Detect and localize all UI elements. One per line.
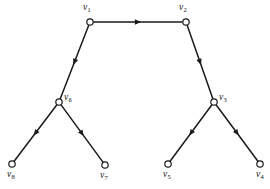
node-label-v8: v8 — [7, 170, 15, 180]
node-label-subscript-v6: 6 — [68, 96, 72, 103]
node-label-v3: v3 — [219, 93, 227, 103]
arrowhead-icon-v1-v2 — [135, 19, 141, 24]
node-label-subscript-v7: 7 — [104, 174, 108, 181]
graph-node-v1 — [87, 19, 93, 25]
graph-canvas — [0, 0, 270, 189]
node-label-subscript-v4: 4 — [260, 173, 264, 180]
node-label-v1: v1 — [83, 3, 91, 13]
graph-node-v7 — [102, 162, 108, 168]
graph-figure: v1v2v3v4v5v6v7v8 — [0, 0, 270, 189]
graph-node-v8 — [9, 161, 15, 167]
arrowhead-icon-v1-v6 — [73, 58, 78, 65]
graph-node-v4 — [257, 161, 263, 167]
arrowheads-layer — [34, 19, 239, 136]
node-label-v4: v4 — [256, 170, 264, 180]
node-label-v5: v5 — [163, 170, 171, 180]
node-label-subscript-v1: 1 — [87, 6, 91, 13]
node-label-v6: v6 — [64, 93, 72, 103]
node-label-subscript-v8: 8 — [11, 173, 15, 180]
node-label-subscript-v2: 2 — [183, 6, 187, 13]
node-label-v2: v2 — [179, 3, 187, 13]
arrowhead-icon-v2-v3 — [196, 58, 201, 65]
graph-node-v3 — [211, 99, 217, 105]
node-label-subscript-v5: 5 — [167, 173, 171, 180]
graph-node-v5 — [165, 161, 171, 167]
node-label-v7: v7 — [100, 171, 108, 181]
graph-node-v2 — [183, 19, 189, 25]
node-label-subscript-v3: 3 — [223, 96, 227, 103]
graph-node-v6 — [56, 99, 62, 105]
